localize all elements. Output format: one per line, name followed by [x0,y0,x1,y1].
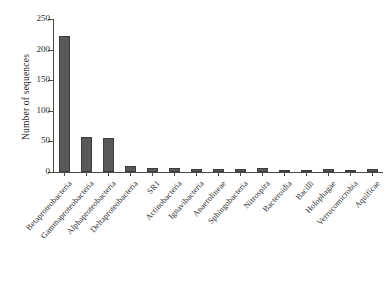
bar [279,170,290,172]
bar [257,168,268,172]
x-tick-mark [130,172,131,176]
x-tick-mark [196,172,197,176]
x-tick-mark [262,172,263,176]
bar [323,169,334,172]
x-tick-mark [86,172,87,176]
bar [125,166,136,172]
x-tick-mark [152,172,153,176]
x-tick-mark [284,172,285,176]
plot-area: 050100150200250 [53,19,383,172]
x-tick-mark [240,172,241,176]
bar [367,169,378,172]
bar [301,170,312,172]
bar [147,168,158,172]
y-tick-label: 250 [37,13,51,23]
x-tick-mark [64,172,65,176]
y-tick-label: 200 [37,44,51,54]
bar [169,168,180,172]
bar [191,169,202,172]
x-tick-mark [218,172,219,176]
x-tick-mark [350,172,351,176]
bar [59,36,70,172]
y-tick-label: 150 [37,74,51,84]
y-axis-line [53,19,54,172]
x-tick-mark [174,172,175,176]
x-tick-mark [306,172,307,176]
x-tick-mark [108,172,109,176]
bar [81,137,92,172]
y-tick-label: 0 [46,166,51,176]
bar-chart-figure: Number of sequences 050100150200250 Beta… [0,0,389,288]
bar [213,169,224,172]
bar [235,169,246,172]
y-tick-label: 50 [41,135,50,145]
bar [103,138,114,172]
x-tick-mark [328,172,329,176]
x-tick-label: SR1 [145,179,161,196]
x-tick-mark [372,172,373,176]
y-tick-label: 100 [37,105,51,115]
bar [345,170,356,172]
